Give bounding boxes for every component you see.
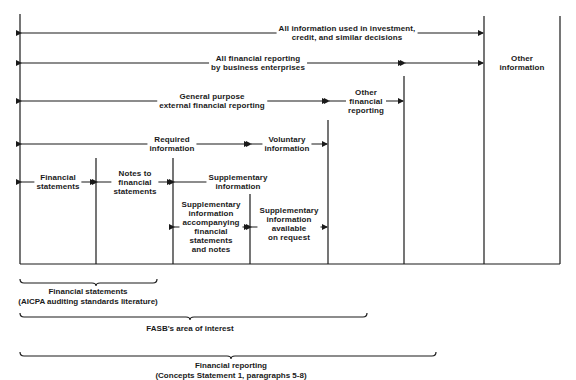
general-purpose-label: General purpose external financial repor… bbox=[157, 92, 267, 110]
all-financial-reporting-label: All financial reporting by business ente… bbox=[209, 54, 307, 72]
all-information-label: All information used in investment, cred… bbox=[277, 24, 418, 42]
brace-financial-statements-caption: Financial statements (AICPA auditing sta… bbox=[18, 287, 158, 307]
supplementary-on-request-label: Supplementary information available on r… bbox=[257, 206, 320, 242]
brace-fasb-caption: FASB's area of interest bbox=[146, 324, 233, 334]
supplementary-information-label: Supplementary information bbox=[206, 173, 269, 191]
supplementary-accompanying-label: Supplementary information accompanying f… bbox=[179, 200, 242, 254]
other-financial-reporting-label: Other financial reporting bbox=[346, 88, 386, 115]
required-information-label: Required information bbox=[147, 135, 196, 153]
notes-label: Notes to financial statements bbox=[111, 169, 158, 196]
other-information-label: Other information bbox=[497, 54, 546, 72]
financial-statements-label: Financial statements bbox=[34, 173, 81, 191]
voluntary-information-label: Voluntary information bbox=[262, 135, 311, 153]
brace-financial-reporting-caption: Financial reporting (Concepts Statement … bbox=[155, 361, 306, 380]
